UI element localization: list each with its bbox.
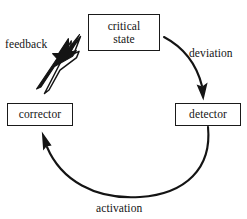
feedback-outlined-arrow-icon: [45, 37, 81, 94]
node-corrector[interactable]: corrector: [7, 103, 73, 126]
activation-arc: [47, 127, 208, 197]
diagram-canvas: critical state corrector detector deviat…: [0, 0, 247, 219]
edge-activation: [42, 127, 209, 197]
node-detector-label: detector: [189, 108, 227, 121]
edge-label-activation: activation: [96, 202, 142, 214]
node-detector[interactable]: detector: [175, 103, 241, 126]
edge-label-feedback: feedback: [5, 38, 47, 50]
node-critical-state[interactable]: critical state: [88, 14, 160, 51]
deviation-arc: [164, 37, 202, 86]
node-corrector-label: corrector: [19, 108, 61, 121]
edge-label-deviation: deviation: [189, 47, 233, 59]
node-critical-state-label: critical state: [108, 20, 141, 46]
